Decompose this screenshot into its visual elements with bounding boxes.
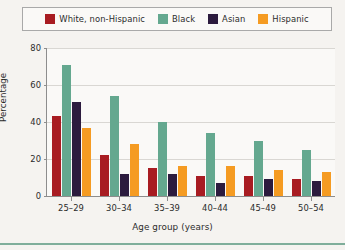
- x-tick-label: 30–34: [106, 203, 132, 213]
- y-tick-label: 40: [30, 118, 41, 126]
- legend-label: Hispanic: [272, 14, 308, 24]
- x-tick-label: 50–54: [298, 203, 324, 213]
- legend-swatch-icon: [158, 14, 168, 24]
- bar: [62, 65, 71, 196]
- y-tick-mark: [44, 122, 47, 123]
- legend-label: White, non-Hispanic: [59, 14, 145, 24]
- y-tick-mark: [44, 85, 47, 86]
- legend-entry: Asian: [208, 14, 245, 24]
- bar: [206, 133, 215, 196]
- bar: [178, 166, 187, 196]
- y-axis-title: Percentage: [0, 73, 8, 122]
- x-axis-title: Age group (years): [0, 222, 345, 232]
- x-tick-mark: [311, 197, 312, 201]
- bar: [158, 122, 167, 196]
- y-tick-label: 80: [30, 44, 41, 52]
- x-tick-label: 25–29: [58, 203, 84, 213]
- x-tick-label: 35–39: [154, 203, 180, 213]
- x-tick-mark: [167, 197, 168, 201]
- x-tick-label: 40–44: [202, 203, 228, 213]
- bar: [292, 179, 301, 196]
- legend-swatch-icon: [45, 14, 55, 24]
- bar-group: [287, 48, 335, 196]
- bars-layer: [47, 48, 335, 196]
- y-tick-mark: [44, 159, 47, 160]
- bar-group: [191, 48, 239, 196]
- chart-figure: White, non-HispanicBlackAsianHispanic Pe…: [0, 0, 345, 250]
- bar: [274, 170, 283, 196]
- bar-group: [47, 48, 95, 196]
- bar: [244, 176, 253, 196]
- y-tick-mark: [44, 196, 47, 197]
- legend-swatch-icon: [208, 14, 218, 24]
- y-tick-label: 60: [30, 81, 41, 89]
- bar: [226, 166, 235, 196]
- bar: [168, 174, 177, 196]
- bar: [120, 174, 129, 196]
- x-tick-label: 45–49: [250, 203, 276, 213]
- x-tick-mark: [263, 197, 264, 201]
- bottom-divider: [0, 243, 345, 245]
- bar: [72, 102, 81, 196]
- x-tick-mark: [215, 197, 216, 201]
- bar: [82, 128, 91, 196]
- bar: [322, 172, 331, 196]
- x-tick-mark: [119, 197, 120, 201]
- legend-label: Asian: [222, 14, 245, 24]
- x-tick-mark: [71, 197, 72, 201]
- chart-legend: White, non-HispanicBlackAsianHispanic: [22, 7, 332, 31]
- bar: [110, 96, 119, 196]
- bar: [254, 141, 263, 197]
- bar: [52, 116, 61, 196]
- legend-entry: Hispanic: [258, 14, 308, 24]
- bar-group: [143, 48, 191, 196]
- bar-group: [239, 48, 287, 196]
- bar: [100, 155, 109, 196]
- bar: [196, 176, 205, 196]
- bar: [130, 144, 139, 196]
- bar: [312, 181, 321, 196]
- legend-entry: Black: [158, 14, 195, 24]
- bar: [264, 179, 273, 196]
- y-tick-label: 20: [30, 155, 41, 163]
- legend-entry: White, non-Hispanic: [45, 14, 145, 24]
- bar-group: [95, 48, 143, 196]
- legend-label: Black: [172, 14, 195, 24]
- y-tick-mark: [44, 48, 47, 49]
- y-tick-label: 0: [36, 192, 41, 200]
- bar: [302, 150, 311, 196]
- bar: [148, 168, 157, 196]
- legend-swatch-icon: [258, 14, 268, 24]
- bar: [216, 183, 225, 196]
